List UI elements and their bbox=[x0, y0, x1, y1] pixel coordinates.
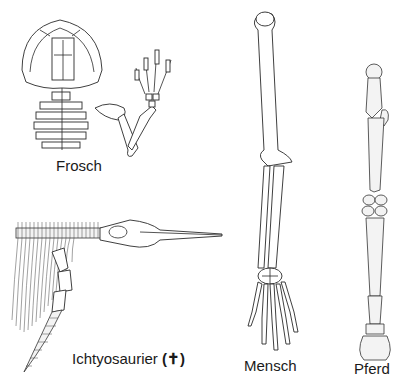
label-ichtyosaurier-name: Ichtyosaurier bbox=[72, 350, 158, 367]
extinct-dagger-icon: (✝) bbox=[162, 350, 185, 367]
label-ichtyosaurier: Ichtyosaurier (✝) bbox=[72, 350, 185, 368]
diagram-canvas: Frosch Ichtyosaurier (✝) Mensch Pferd bbox=[0, 0, 399, 385]
label-pferd: Pferd bbox=[354, 360, 390, 377]
horse-leg-skeleton bbox=[0, 0, 399, 385]
label-frosch: Frosch bbox=[56, 157, 102, 174]
label-mensch: Mensch bbox=[244, 357, 297, 374]
